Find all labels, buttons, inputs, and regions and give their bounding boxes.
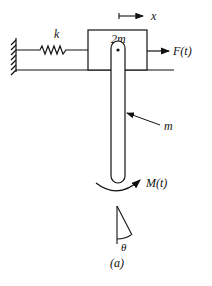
pivot-pin — [116, 48, 119, 51]
displacement-label: x — [150, 9, 157, 23]
angle-label: θ — [121, 241, 127, 253]
pendulum-leader — [127, 113, 160, 125]
displacement-arrow — [119, 13, 143, 19]
pendulum-bar — [111, 41, 125, 183]
pendulum-mass-label: m — [164, 119, 173, 133]
figure-caption: (a) — [110, 256, 124, 270]
spring-label: k — [54, 27, 60, 41]
force-label: F(t) — [172, 44, 192, 58]
mechanical-system-diagram: k 2m x F(t) m M(t) θ (a) — [0, 0, 212, 286]
fixed-wall — [11, 38, 16, 75]
spring — [16, 46, 88, 54]
moment-label: M(t) — [145, 176, 167, 190]
angle-sketch — [117, 206, 132, 244]
